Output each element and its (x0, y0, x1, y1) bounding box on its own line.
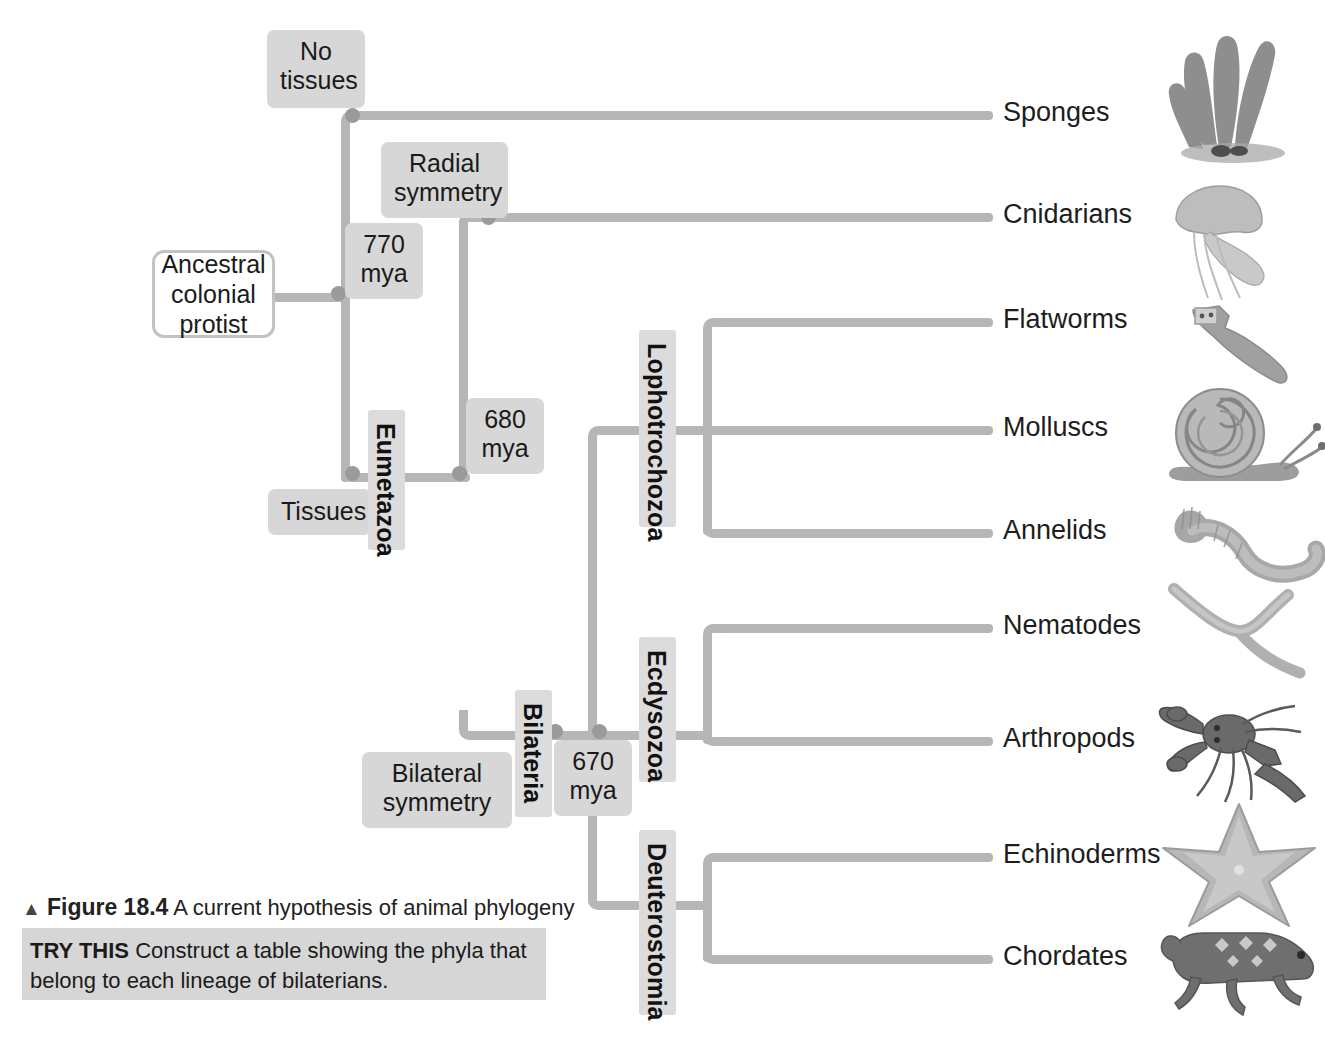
try-this-line-2: belong to each lineage of bilaterians. (30, 968, 388, 993)
node-dot-sponges-split (345, 108, 360, 123)
node-dot-tissues (345, 466, 360, 481)
tip-label-molluscs: Molluscs (1003, 412, 1108, 442)
branch-to-chordates (722, 955, 993, 964)
branch-to-sponges (345, 111, 993, 120)
try-this-label: TRY THIS (30, 938, 129, 963)
jellyfish-illustration (1160, 178, 1320, 303)
lobster-illustration (1155, 690, 1325, 815)
trait-tag-radial-symmetry: Radial symmetry (381, 142, 508, 218)
clade-tag-deuterostomia: Deuterostomia (639, 830, 676, 1015)
clade-tag-eumetazoa: Eumetazoa (368, 410, 405, 550)
trait-tag-no-tissues: No tissues (267, 30, 365, 108)
try-this-line-1: Construct a table showing the phyla that (135, 938, 526, 963)
snail-illustration (1160, 385, 1325, 495)
nematode-illustration (1160, 575, 1325, 685)
sponge-illustration (1155, 25, 1315, 165)
node-dot-680mya (452, 466, 467, 481)
branch-bilateria-spine (588, 445, 597, 905)
figure-number: Figure 18.4 (47, 894, 168, 920)
time-tag-770mya: 770 mya (345, 223, 423, 299)
time-tag-670mya: 670 mya (554, 740, 632, 816)
node-dot-670mya (592, 724, 607, 739)
branch-to-nematodes (722, 624, 993, 633)
branch-to-annelids (722, 529, 993, 538)
branch-to-arthropods (722, 737, 993, 746)
tip-label-nematodes: Nematodes (1003, 610, 1141, 640)
tip-label-sponges: Sponges (1003, 97, 1110, 127)
figure-caption: ▲ Figure 18.4 A current hypothesis of an… (22, 893, 574, 923)
branch-root-spine (341, 120, 350, 482)
tip-label-echinoderms: Echinoderms (1003, 839, 1161, 869)
clade-tag-lophotrochozoa: Lophotrochozoa (639, 330, 676, 527)
tip-label-chordates: Chordates (1003, 941, 1128, 971)
figure-canvas: No tissues Radial symmetry Tissues Bilat… (0, 0, 1325, 1046)
flatworm-illustration (1185, 300, 1325, 390)
tip-label-annelids: Annelids (1003, 515, 1107, 545)
node-dot-root-770mya (331, 286, 346, 301)
root-taxon-box: Ancestral colonial protist (152, 250, 275, 338)
clade-tag-ecdysozoa: Ecdysozoa (639, 637, 676, 782)
branch-to-cnidarians (463, 213, 993, 222)
tip-label-cnidarians: Cnidarians (1003, 199, 1132, 229)
tip-label-arthropods: Arthropods (1003, 723, 1135, 753)
clade-tag-bilateria: Bilateria (515, 690, 552, 817)
branch-to-flatworms (722, 318, 993, 327)
tip-label-flatworms: Flatworms (1003, 304, 1128, 334)
time-tag-680mya: 680 mya (466, 398, 544, 474)
branch-to-echinoderms (722, 853, 993, 862)
try-this-box: TRY THIS Construct a table showing the p… (22, 928, 546, 1000)
branch-to-molluscs (703, 426, 993, 435)
caption-triangle-icon: ▲ (22, 898, 41, 919)
salamander-illustration (1155, 905, 1325, 1020)
figure-title: A current hypothesis of animal phylogeny (173, 895, 574, 920)
trait-tag-bilateral-symmetry: Bilateral symmetry (362, 752, 512, 828)
trait-tag-tissues: Tissues (268, 489, 371, 535)
